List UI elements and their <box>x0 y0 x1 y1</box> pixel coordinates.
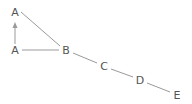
node-d: D <box>136 74 144 87</box>
edge-d-to-e <box>147 83 170 92</box>
edge-a-top-to-b <box>21 12 60 46</box>
edge-c-to-d <box>111 69 133 77</box>
node-e: E <box>174 89 181 102</box>
node-a-top: A <box>11 6 19 19</box>
arrowhead-icon <box>13 22 18 28</box>
edge-b-to-c <box>73 53 97 63</box>
node-a-bottom: A <box>11 44 19 57</box>
graph-diagram: A A B C D E <box>0 0 192 104</box>
node-b: B <box>62 44 70 57</box>
node-c: C <box>100 60 108 73</box>
